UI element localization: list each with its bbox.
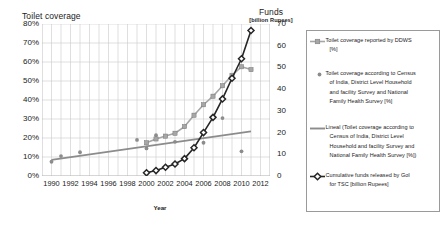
right-axis-tick: 0 bbox=[277, 172, 299, 180]
x-axis-tick: 1996 bbox=[100, 180, 116, 187]
x-axis-tick-labels: 1990199219941996199820002002200420062008… bbox=[42, 180, 270, 194]
legend-item-funds[interactable]: Cumulative funds released by GoIfor TSC … bbox=[310, 171, 439, 190]
x-axis-tick: 2004 bbox=[176, 180, 192, 187]
right-axis-tick-labels: 010203040506070 bbox=[277, 24, 299, 176]
x-axis-tick: 1994 bbox=[81, 180, 97, 187]
left-axis-tick: 10% bbox=[11, 153, 39, 161]
right-axis-tick: 70 bbox=[277, 20, 299, 28]
chart-legend: Toilet coverage reported by DDWS[%]Toile… bbox=[306, 30, 440, 212]
right-axis-tick: 50 bbox=[277, 63, 299, 71]
legend-label-census: Toilet coverage according to Censusof In… bbox=[325, 69, 416, 107]
x-axis-tick: 2010 bbox=[233, 180, 249, 187]
legend-marker-lineal-icon bbox=[310, 124, 325, 133]
right-axis-title-group: Funds [billion Rupees] bbox=[229, 8, 313, 24]
left-axis-tick: 0% bbox=[11, 172, 39, 180]
right-axis-tick: 60 bbox=[277, 42, 299, 50]
left-axis-tick: 20% bbox=[11, 134, 39, 142]
left-axis-tick: 30% bbox=[11, 115, 39, 123]
left-axis-tick: 40% bbox=[11, 96, 39, 104]
legend-item-census[interactable]: Toilet coverage according to Censusof In… bbox=[310, 69, 439, 107]
right-axis-title: Funds bbox=[229, 8, 313, 17]
left-axis-tick: 80% bbox=[11, 20, 39, 28]
x-axis-tick: 2012 bbox=[252, 180, 268, 187]
left-axis-tick: 70% bbox=[11, 39, 39, 47]
right-axis-tick: 20 bbox=[277, 129, 299, 137]
x-axis-tick: 2000 bbox=[138, 180, 154, 187]
chart-root: Toilet coverage Funds [billion Rupees] 0… bbox=[0, 0, 443, 232]
x-axis-title: Year bbox=[130, 204, 190, 211]
left-axis-tick-labels: 0%10%20%30%40%50%60%70%80% bbox=[8, 24, 39, 176]
plot-area bbox=[42, 24, 270, 176]
legend-label-lineal: Lineal (Toilet coverage according toCens… bbox=[325, 123, 416, 161]
x-axis-tick: 1998 bbox=[119, 180, 135, 187]
plot-svg bbox=[42, 24, 270, 176]
right-axis-tick: 10 bbox=[277, 150, 299, 158]
legend-marker-census-icon bbox=[310, 70, 325, 79]
legend-marker-ddws-icon bbox=[310, 37, 325, 46]
right-axis-tick: 40 bbox=[277, 85, 299, 93]
x-axis-tick: 1990 bbox=[43, 180, 59, 187]
legend-label-funds: Cumulative funds released by GoIfor TSC … bbox=[325, 171, 410, 190]
right-axis-title-unit: [billion Rupees] bbox=[229, 18, 313, 24]
legend-marker-funds-icon bbox=[310, 172, 325, 181]
legend-label-ddws: Toilet coverage reported by DDWS[%] bbox=[325, 36, 412, 55]
legend-item-lineal[interactable]: Lineal (Toilet coverage according toCens… bbox=[310, 123, 439, 161]
left-axis-tick: 60% bbox=[11, 58, 39, 66]
right-axis-tick: 30 bbox=[277, 107, 299, 115]
x-axis-tick: 1992 bbox=[62, 180, 78, 187]
left-axis-tick: 50% bbox=[11, 77, 39, 85]
x-axis-tick: 2008 bbox=[214, 180, 230, 187]
legend-item-ddws[interactable]: Toilet coverage reported by DDWS[%] bbox=[310, 36, 439, 55]
x-axis-tick: 2002 bbox=[157, 180, 173, 187]
x-axis-tick: 2006 bbox=[195, 180, 211, 187]
